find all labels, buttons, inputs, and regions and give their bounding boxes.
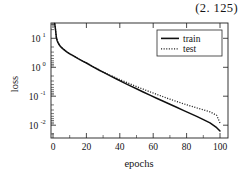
ytick-label-10e-1: 10 -1: [29, 89, 46, 102]
legend-label-test: test: [183, 44, 197, 54]
ytick-mantissa-10e1: 10: [31, 34, 41, 44]
ytick-exponent-10e-2: -2: [40, 118, 45, 125]
xtick-label-60: 60: [148, 142, 158, 152]
ytick-mantissa-10e0: 10: [31, 63, 41, 73]
ytick-exponent-10e0: 0: [43, 60, 46, 67]
ytick-label-10e0: 10 0: [31, 60, 46, 73]
ytick-label-10e1: 10 1: [31, 31, 46, 44]
xtick-label-40: 40: [115, 142, 125, 152]
xtick-label-100: 100: [213, 142, 228, 152]
y-axis-title: loss: [9, 76, 20, 92]
loss-curve-chart: 0 20 40 60 80 100: [0, 0, 246, 188]
xtick-label-80: 80: [182, 142, 192, 152]
chart-legend[interactable]: train test: [157, 30, 222, 56]
ytick-exponent-10e-1: -1: [40, 89, 45, 96]
ytick-label-10e-2: 10 -2: [29, 118, 46, 131]
xtick-label-0: 0: [51, 142, 56, 152]
figure-container: (2. 125) 0 20 40 60 80: [0, 0, 246, 188]
ytick-mantissa-10e-1: 10: [29, 92, 39, 102]
ytick-exponent-10e1: 1: [43, 31, 46, 38]
x-axis-title: epochs: [124, 158, 153, 169]
xtick-label-20: 20: [82, 142, 92, 152]
ytick-mantissa-10e-2: 10: [29, 121, 39, 131]
legend-label-train: train: [183, 34, 201, 44]
